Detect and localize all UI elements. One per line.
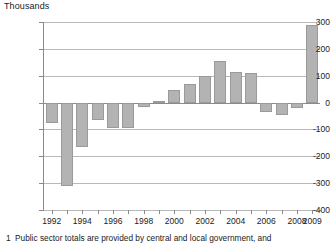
bar-2003 (214, 61, 226, 103)
x-tick-mark (190, 210, 191, 214)
y-tick-mark (39, 183, 44, 184)
x-tick-mark (297, 210, 298, 214)
y-tick-mark (39, 76, 44, 77)
gridline (44, 76, 320, 77)
x-tick-mark (174, 210, 175, 214)
bar-1998 (138, 103, 150, 108)
bar-2006 (260, 103, 272, 112)
x-tick-label: 2002 (196, 216, 215, 226)
bar-2000 (168, 90, 180, 102)
x-tick-label: 1998 (134, 216, 153, 226)
footnote-number: 1 (6, 233, 15, 244)
x-tick-label: 2009 (303, 216, 322, 226)
x-tick-mark (282, 210, 283, 214)
bar-2002 (199, 76, 211, 103)
chart-figure: Thousands 3002001000-100-200-300-400 199… (0, 0, 330, 246)
y-tick-label: 300 (292, 17, 330, 27)
bar-1995 (92, 103, 104, 120)
bar-1994 (76, 103, 88, 147)
y-tick-label: 200 (292, 44, 330, 54)
bar-1999 (153, 101, 165, 103)
bar-2009 (306, 25, 318, 103)
x-tick-mark (159, 210, 160, 214)
gridline (44, 49, 320, 50)
y-tick-mark (39, 156, 44, 157)
x-tick-mark (144, 210, 145, 214)
y-tick-label: -200 (292, 151, 330, 161)
y-tick-mark (39, 129, 44, 130)
x-tick-mark (67, 210, 68, 214)
bar-1993 (61, 103, 73, 186)
y-axis-unit-title: Thousands (4, 1, 49, 11)
gridline (44, 156, 320, 157)
bar-2001 (184, 84, 196, 103)
y-tick-label: -100 (292, 124, 330, 134)
y-tick-mark (39, 103, 44, 104)
x-tick-label: 2006 (257, 216, 276, 226)
x-tick-label: 1996 (104, 216, 123, 226)
bar-1996 (107, 103, 119, 129)
footnote: 1Public sector totals are provided by ce… (6, 233, 326, 244)
x-tick-mark (236, 210, 237, 214)
x-tick-mark (52, 210, 53, 214)
y-tick-mark (39, 22, 44, 23)
x-tick-label: 2004 (226, 216, 245, 226)
y-tick-mark (39, 210, 44, 211)
y-tick-mark (39, 49, 44, 50)
x-tick-mark (98, 210, 99, 214)
x-tick-label: 2000 (165, 216, 184, 226)
x-tick-mark (266, 210, 267, 214)
gridline (44, 183, 320, 184)
y-tick-label: 0 (292, 98, 330, 108)
bar-2007 (276, 103, 288, 116)
plot-area (44, 22, 320, 210)
x-tick-label: 1992 (42, 216, 61, 226)
bar-1997 (122, 103, 134, 128)
y-tick-label: 100 (292, 71, 330, 81)
gridline (44, 22, 320, 23)
x-tick-mark (312, 210, 313, 214)
bar-2004 (230, 72, 242, 103)
x-tick-mark (220, 210, 221, 214)
y-tick-label: -300 (292, 178, 330, 188)
bar-1992 (46, 103, 58, 123)
x-tick-mark (113, 210, 114, 214)
gridline (44, 210, 320, 211)
x-tick-mark (128, 210, 129, 214)
bar-2005 (245, 73, 257, 103)
x-tick-label: 1994 (73, 216, 92, 226)
x-tick-mark (82, 210, 83, 214)
x-tick-mark (205, 210, 206, 214)
x-tick-mark (251, 210, 252, 214)
footnote-text: Public sector totals are provided by cen… (15, 233, 271, 243)
